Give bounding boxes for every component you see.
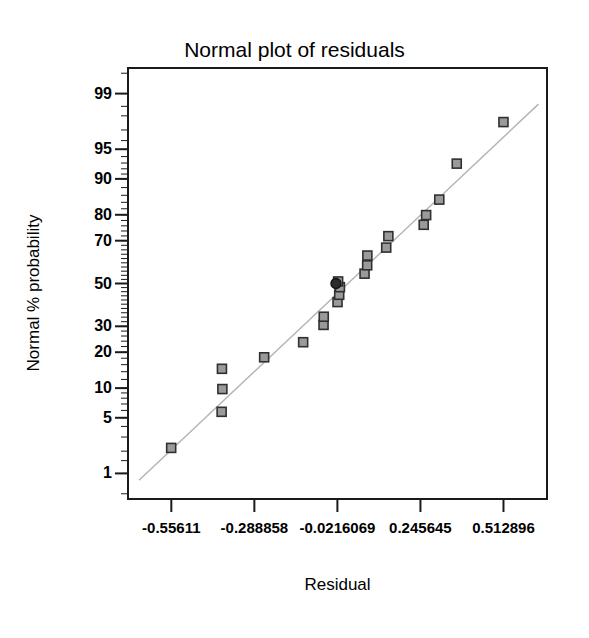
y-axis-title: Normal % probability: [24, 163, 44, 423]
y-axis-ticks: [115, 73, 127, 494]
x-axis-tick-label: -0.288858: [221, 520, 289, 535]
normal-probability-plot: Normal plot of residuals 151020305070809…: [0, 0, 589, 638]
data-point-marker[interactable]: [435, 195, 444, 204]
data-point-marker[interactable]: [363, 261, 372, 270]
data-point-marker[interactable]: [319, 312, 328, 321]
y-axis-tick-label: 50: [66, 276, 112, 292]
x-axis-tick-label: -0.0216069: [299, 520, 375, 535]
y-axis-tick-label: 70: [66, 233, 112, 249]
data-point-marker[interactable]: [217, 407, 226, 416]
y-axis-tick-label: 90: [66, 171, 112, 187]
plot-canvas: [127, 67, 548, 500]
x-axis-tick-label: -0.55611: [142, 520, 200, 535]
data-points-group: [167, 118, 508, 453]
y-axis-tick-label: 99: [66, 86, 112, 102]
y-axis-tick-label: 10: [66, 380, 112, 396]
data-point-marker[interactable]: [384, 232, 393, 241]
highlighted-data-point-marker[interactable]: [331, 279, 341, 289]
data-point-marker[interactable]: [218, 385, 227, 394]
x-axis-tick-label: 0.245645: [389, 520, 452, 535]
y-axis-tick-label: 30: [66, 318, 112, 334]
x-axis-tick-label: 0.512896: [472, 520, 535, 535]
data-point-marker[interactable]: [452, 159, 461, 168]
x-axis-ticks: [171, 500, 503, 512]
data-point-marker[interactable]: [167, 443, 176, 452]
data-point-marker[interactable]: [499, 118, 508, 127]
y-axis-tick-label: 20: [66, 344, 112, 360]
data-point-marker[interactable]: [299, 338, 308, 347]
data-point-marker[interactable]: [422, 211, 431, 220]
data-point-marker[interactable]: [217, 364, 226, 373]
data-point-marker[interactable]: [419, 220, 428, 229]
y-axis-tick-labels: 15102030507080909599: [66, 0, 112, 638]
data-point-marker[interactable]: [260, 353, 269, 362]
y-axis-tick-label: 5: [66, 410, 112, 426]
data-point-marker[interactable]: [363, 251, 372, 260]
y-axis-tick-label: 80: [66, 207, 112, 223]
y-axis-tick-label: 95: [66, 141, 112, 157]
y-axis-tick-label: 1: [66, 465, 112, 481]
data-point-marker[interactable]: [382, 243, 391, 252]
x-axis-title: Residual: [127, 575, 548, 595]
x-axis-tick-labels: -0.55611-0.288858-0.02160690.2456450.512…: [0, 516, 589, 540]
